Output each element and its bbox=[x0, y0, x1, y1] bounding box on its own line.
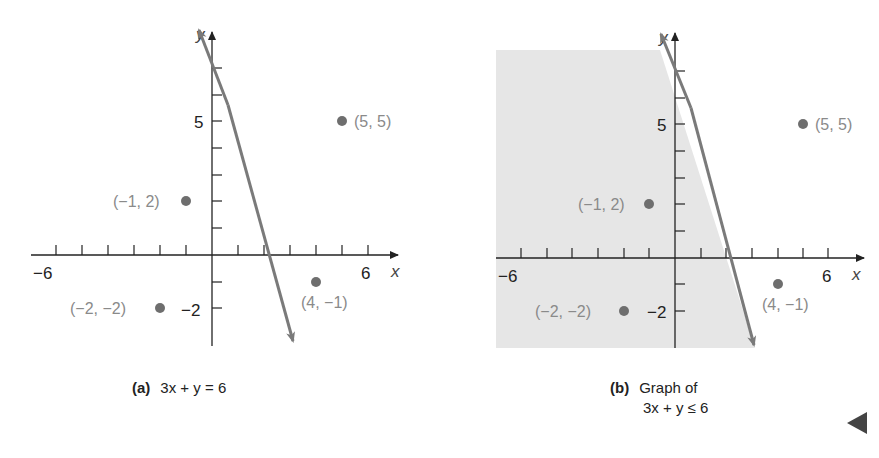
point-5-5 bbox=[798, 119, 808, 129]
point-4-neg1 bbox=[773, 279, 783, 289]
caption-b-line2: 3x + y ≤ 6 bbox=[643, 399, 708, 416]
x-tick-label-neg6: −6 bbox=[33, 264, 52, 283]
point-label-5-5: (5, 5) bbox=[815, 116, 852, 133]
y-ticks bbox=[212, 68, 222, 308]
x-axis-label: x bbox=[390, 262, 400, 281]
y-tick-label-neg2: −2 bbox=[647, 303, 666, 322]
point-label-4-neg1: (4, −1) bbox=[762, 296, 809, 313]
point-label-neg1-2: (−1, 2) bbox=[578, 196, 625, 213]
caption-b-line1: Graph of bbox=[639, 379, 697, 396]
x-tick-label-6: 6 bbox=[822, 267, 831, 286]
point-label-4-neg1: (4, −1) bbox=[301, 294, 348, 311]
x-tick-label-neg6: −6 bbox=[498, 267, 517, 286]
x-axis-label: x bbox=[851, 265, 861, 284]
boundary-line-lower bbox=[228, 105, 293, 341]
boundary-line bbox=[199, 30, 228, 105]
caption-b: (b)Graph of 3x + y ≤ 6 bbox=[610, 378, 708, 418]
point-label-neg2-neg2: (−2, −2) bbox=[535, 303, 591, 320]
left-triangle-icon[interactable] bbox=[847, 412, 867, 434]
point-label-neg2-neg2: (−2, −2) bbox=[70, 300, 126, 317]
point-4-neg1 bbox=[311, 277, 321, 287]
point-neg1-2 bbox=[644, 199, 654, 209]
x-tick-label-6: 6 bbox=[361, 264, 370, 283]
caption-a-text: 3x + y = 6 bbox=[160, 379, 226, 396]
caption-a: (a)3x + y = 6 bbox=[132, 378, 226, 398]
y-tick-label-5: 5 bbox=[194, 113, 203, 132]
caption-b-tag: (b) bbox=[610, 379, 629, 396]
caption-a-tag: (a) bbox=[132, 379, 150, 396]
point-neg1-2 bbox=[181, 196, 191, 206]
point-label-5-5: (5, 5) bbox=[354, 113, 391, 130]
point-neg2-neg2 bbox=[155, 303, 165, 313]
point-5-5 bbox=[337, 116, 347, 126]
panel-a: −6 6 5 −2 x y (5, 5) (−1, 2) (−2, −2) (4… bbox=[31, 25, 400, 346]
point-label-neg1-2: (−1, 2) bbox=[113, 193, 160, 210]
panel-b: −6 6 5 −2 x y (5, 5) (−1, 2) (−2, −2) (4… bbox=[496, 28, 864, 348]
point-neg2-neg2 bbox=[619, 306, 629, 316]
y-tick-label-5: 5 bbox=[657, 116, 666, 135]
y-tick-label-neg2: −2 bbox=[181, 301, 200, 320]
